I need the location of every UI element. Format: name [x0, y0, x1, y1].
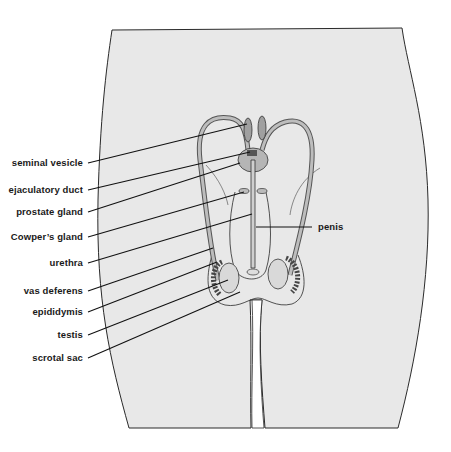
glans [247, 269, 259, 275]
label-urethra: urethra [50, 257, 83, 268]
label-epididymis: epididymis [32, 306, 83, 317]
label-scrotal-sac: scrotal sac [32, 352, 83, 363]
seminal-vesicle-right [258, 116, 266, 140]
cowpers-gland-right [257, 189, 267, 194]
label-vas-deferens: vas deferens [24, 285, 83, 296]
testis-right [268, 259, 288, 289]
testis-left [219, 263, 239, 293]
label-penis: penis [318, 221, 343, 232]
seminal-vesicle-left [244, 118, 252, 142]
label-prostate-gland: prostate gland [16, 206, 83, 217]
ejaculatory-duct [247, 150, 257, 156]
label-testis: testis [58, 329, 83, 340]
body-silhouette [98, 28, 428, 428]
anatomy-diagram [0, 0, 451, 452]
label-cowpers-gland: Cowper’s gland [11, 231, 83, 242]
label-seminal-vesicle: seminal vesicle [12, 157, 83, 168]
label-ejaculatory-duct: ejaculatory duct [9, 184, 83, 195]
